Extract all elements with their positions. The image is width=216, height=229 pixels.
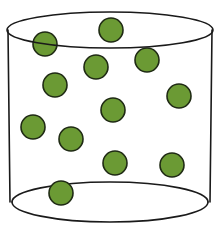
bottom-rim-front bbox=[12, 202, 208, 222]
left-wall bbox=[8, 30, 10, 202]
particle bbox=[160, 153, 184, 177]
particle bbox=[49, 181, 73, 205]
bottom-rim-back bbox=[12, 182, 208, 202]
particle bbox=[99, 18, 123, 42]
particle bbox=[21, 115, 45, 139]
particles-group bbox=[21, 18, 191, 205]
right-wall bbox=[210, 30, 212, 202]
particle bbox=[101, 98, 125, 122]
particle bbox=[59, 127, 83, 151]
cylinder-back-outline bbox=[12, 182, 208, 202]
particle bbox=[84, 55, 108, 79]
particle bbox=[103, 151, 127, 175]
particle bbox=[167, 84, 191, 108]
particle bbox=[43, 73, 67, 97]
cylinder-diagram bbox=[0, 0, 216, 229]
particle bbox=[135, 48, 159, 72]
